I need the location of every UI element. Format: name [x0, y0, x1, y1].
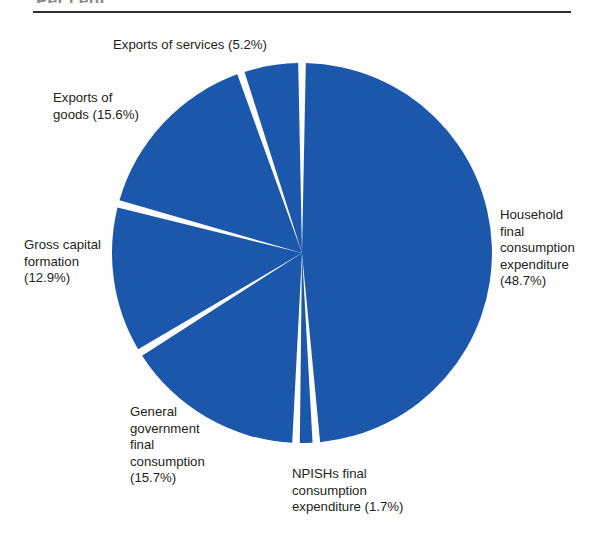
- label-exports-of-services: Exports of services (5.2%): [113, 37, 267, 54]
- pie-slice-group: [112, 63, 492, 443]
- chart-page: Per cent Exports of services (5.2%) Expo…: [0, 0, 604, 539]
- pie-slice[interactable]: [302, 63, 492, 442]
- label-npishs: NPISHs final consumption expenditure (1.…: [292, 466, 403, 516]
- label-exports-of-goods: Exports of goods (15.6%): [53, 90, 139, 123]
- label-household: Household final consumption expenditure …: [500, 207, 575, 290]
- label-general-government: General government final consumption (15…: [130, 404, 205, 487]
- label-gross-capital-formation: Gross capital formation (12.9%): [24, 237, 101, 287]
